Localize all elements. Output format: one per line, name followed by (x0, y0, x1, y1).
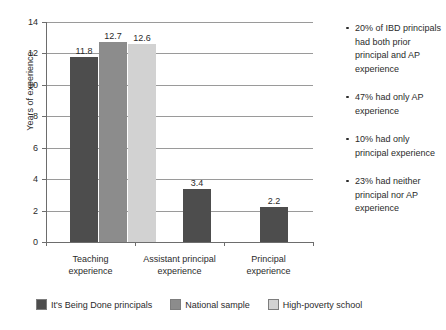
plot-area: 11.8 12.7 12.6 3.4 2.2 (46, 22, 313, 242)
bar-principal-ibd (260, 207, 288, 242)
bar-value-principal-ibd: 2.2 (260, 196, 288, 206)
legend-item-high-poverty-school[interactable]: High-poverty school (268, 299, 363, 310)
annotation-item-1: 20% of IBD principals had both prior pri… (346, 22, 442, 76)
annotation-item-3: 10% had only principal experience (346, 133, 442, 160)
y-axis-title: Years of experience (25, 31, 35, 151)
x-category-principal: Principal experience (224, 253, 313, 277)
bullet-icon (346, 138, 349, 141)
bar-assistant-principal-ibd (183, 189, 211, 242)
bar-chart-figure: 11.8 12.7 12.6 3.4 2.2 14 12 10 8 6 4 2 … (0, 0, 446, 330)
y-tick-label-14: 14 (8, 18, 38, 27)
legend-label-ibd-principals: It's Being Done principals (51, 300, 152, 310)
y-tick-label-2: 2 (8, 207, 38, 216)
annotation-item-2: 47% had only AP experience (346, 91, 442, 118)
bar-value-teaching-ibd: 11.8 (70, 46, 98, 56)
bar-value-assistant-principal-ibd: 3.4 (183, 178, 211, 188)
y-tick-mark-10 (42, 85, 46, 86)
legend-item-national-sample[interactable]: National sample (170, 299, 250, 310)
x-category-principal-line2: experience (224, 265, 313, 277)
x-category-assistant-principal-line2: experience (130, 265, 229, 277)
annotation-list: 20% of IBD principals had both prior pri… (346, 22, 442, 231)
y-tick-mark-4 (42, 179, 46, 180)
x-category-assistant-principal-line1: Assistant principal (130, 253, 229, 265)
annotation-item-4: 23% had neither principal nor AP experie… (346, 175, 442, 216)
bullet-icon (346, 180, 349, 183)
annotation-text-2: 47% had only AP experience (355, 92, 423, 116)
y-tick-label-4: 4 (8, 175, 38, 184)
x-category-teaching-line2: experience (46, 265, 135, 277)
bullet-icon (346, 96, 349, 99)
x-tick-1 (135, 242, 136, 246)
y-tick-mark-8 (42, 116, 46, 117)
bullet-icon (346, 27, 349, 30)
chart-legend: It's Being Done principals National samp… (36, 299, 380, 310)
x-tick-start (46, 242, 47, 246)
legend-item-ibd-principals[interactable]: It's Being Done principals (36, 299, 152, 310)
y-tick-mark-12 (42, 53, 46, 54)
x-category-teaching-line1: Teaching (46, 253, 135, 265)
annotation-text-3: 10% had only principal experience (355, 134, 435, 158)
y-tick-mark-2 (42, 211, 46, 212)
bar-teaching-ibd (70, 57, 98, 242)
legend-swatch-icon-ibd-principals (36, 299, 47, 310)
legend-swatch-icon-high-poverty-school (268, 299, 279, 310)
x-category-assistant-principal: Assistant principal experience (130, 253, 229, 277)
bar-value-teaching-national: 12.7 (99, 31, 127, 41)
bar-teaching-highpoverty (128, 44, 156, 242)
x-tick-end (313, 242, 314, 246)
legend-label-high-poverty-school: High-poverty school (283, 300, 363, 310)
x-axis-line (46, 242, 314, 243)
x-category-principal-line1: Principal (224, 253, 313, 265)
y-axis-line (46, 22, 47, 243)
y-tick-mark-14 (42, 22, 46, 23)
legend-swatch-icon-national-sample (170, 299, 181, 310)
x-category-teaching: Teaching experience (46, 253, 135, 277)
bar-teaching-national (99, 42, 127, 242)
x-tick-2 (224, 242, 225, 246)
y-tick-label-0: 0 (8, 238, 38, 247)
y-tick-mark-6 (42, 148, 46, 149)
annotation-text-4: 23% had neither principal nor AP experie… (355, 176, 421, 213)
gridline-14 (46, 22, 313, 23)
annotation-text-1: 20% of IBD principals had both prior pri… (355, 23, 441, 74)
bar-value-teaching-highpoverty: 12.6 (128, 33, 156, 43)
legend-label-national-sample: National sample (185, 300, 250, 310)
